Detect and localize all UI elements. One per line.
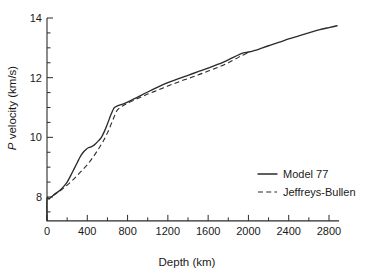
- y-axis-title: P velocity (km/s): [6, 66, 18, 151]
- y-tick-label: 14: [30, 12, 42, 24]
- y-tick-label: 12: [30, 72, 42, 84]
- x-axis-title: Depth (km): [159, 256, 216, 268]
- y-axis-title-group: P velocity (km/s): [6, 66, 18, 151]
- legend-label-model-77: Model 77: [283, 168, 328, 180]
- chart-canvas: 8101214 040080012001600200024002800 Dept…: [0, 0, 371, 273]
- y-tick-label: 8: [36, 191, 42, 203]
- x-axis-tick-labels: 040080012001600200024002800: [44, 225, 341, 237]
- x-tick-label: 1600: [196, 225, 220, 237]
- x-tick-label: 800: [118, 225, 136, 237]
- series-jeffreys-bullen: [53, 53, 248, 196]
- legend-label-jeffreys-bullen: Jeffreys-Bullen: [283, 186, 356, 198]
- x-tick-label: 1200: [156, 225, 180, 237]
- y-axis-tick-labels: 8101214: [30, 12, 42, 203]
- x-axis-ticks: [47, 215, 329, 221]
- x-tick-label: 2000: [236, 225, 260, 237]
- p-velocity-depth-chart: 8101214 040080012001600200024002800 Dept…: [0, 0, 371, 273]
- y-tick-label: 10: [30, 131, 42, 143]
- y-axis-title-rest: velocity (km/s): [6, 66, 18, 143]
- x-tick-label: 0: [44, 225, 50, 237]
- x-tick-label: 2400: [276, 225, 300, 237]
- x-tick-label: 2800: [317, 225, 341, 237]
- x-tick-label: 400: [78, 225, 96, 237]
- y-axis-ticks: [47, 18, 53, 212]
- legend: Model 77 Jeffreys-Bullen: [258, 168, 356, 198]
